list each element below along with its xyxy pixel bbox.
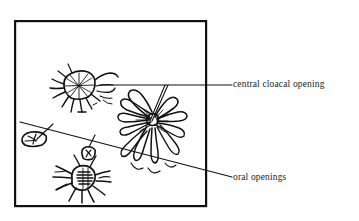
leader-oral-diagonal (20, 122, 232, 177)
illustration-border (15, 21, 206, 206)
label-central-cloacal-opening: central cloacal opening (233, 80, 325, 90)
upper-left-radiating-zooid (50, 64, 118, 112)
small-oval-zooid-middle (82, 147, 95, 160)
label-oral-openings: oral openings (233, 173, 286, 183)
central-lobed-colony (118, 90, 187, 173)
drawing-ink (20, 64, 232, 203)
illustration-figure: central cloacal opening oral openings (0, 0, 359, 221)
illustration-canvas (0, 0, 359, 221)
lower-left-radiating-zooid (53, 155, 111, 203)
